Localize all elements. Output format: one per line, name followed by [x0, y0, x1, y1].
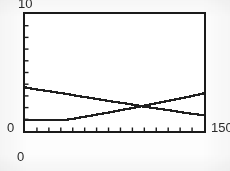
x-axis-max-label: 150 — [211, 121, 230, 134]
y-axis-max-label: 10 — [18, 0, 32, 10]
y-axis-min-label: 0 — [7, 121, 14, 134]
x-axis-min-label: 0 — [17, 150, 24, 163]
chart-figure: 10 0 0 150 — [0, 0, 230, 171]
plot-frame — [23, 12, 206, 133]
